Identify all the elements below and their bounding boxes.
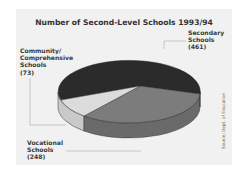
chart-card: Number of Second-Level Schools 1993/94 S… <box>16 9 232 165</box>
label-community-line3: Schools <box>20 61 73 68</box>
label-community-value: (73) <box>20 69 73 76</box>
label-vocational: Vocational Schools (248) <box>27 139 63 161</box>
label-secondary-value: (461) <box>188 43 224 50</box>
label-secondary: Secondary Schools (461) <box>188 29 224 51</box>
label-community-line1: Community/ <box>20 47 73 54</box>
label-secondary-line2: Schools <box>188 36 224 43</box>
label-community-line2: Comprehensive <box>20 54 73 61</box>
label-secondary-line1: Secondary <box>188 29 224 36</box>
label-community: Community/ Comprehensive Schools (73) <box>20 47 73 76</box>
label-vocational-value: (248) <box>27 153 63 160</box>
leader-line-secondary <box>164 41 186 49</box>
label-vocational-line1: Vocational <box>27 139 63 146</box>
label-vocational-line2: Schools <box>27 146 63 153</box>
source-credit: Source: Dept. of Education <box>221 93 226 149</box>
